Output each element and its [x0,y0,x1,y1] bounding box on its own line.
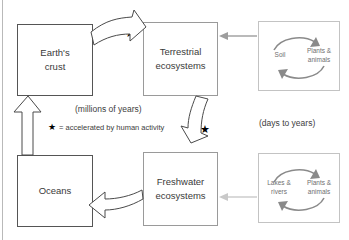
panel-terrestrial-right-label-line1: Plants & [300,47,338,56]
node-freshwater-line1: Freshwater [157,175,205,189]
panel-freshwater-left-label-line2: rivers [260,188,298,197]
star-icon: ★ [48,123,56,132]
figure-left-rule [2,0,3,240]
arrow-terrestrial-to-freshwater [181,96,208,143]
node-oceans[interactable]: Oceans [17,155,93,227]
panel-freshwater-right-label: Plants & animals [300,179,338,197]
node-oceans-line1: Oceans [39,184,72,198]
node-terrestrial-ecosystems[interactable]: Terrestrial ecosystems [143,22,218,96]
node-freshwater-line2: ecosystems [155,189,205,203]
node-terrestrial-line1: Terrestrial [160,45,202,59]
caption-millions-of-years: (millions of years) [75,104,142,114]
node-earth-crust[interactable]: Earth's crust [17,24,93,96]
carbon-cycle-diagram: Earth's crust Terrestrial ecosystems Oce… [0,0,349,240]
arrow-oceans-to-crust [14,96,41,155]
panel-freshwater-right-label-line2: animals [300,188,338,197]
node-earth-crust-line2: crust [45,60,66,74]
node-earth-crust-line1: Earth's [40,46,69,60]
star-icon-terrestrial-to-freshwater: ★ [200,124,210,135]
panel-freshwater-right-label-line1: Plants & [300,179,338,188]
clipped-top-caption [14,0,344,5]
panel-freshwater-left-label-line1: Lakes & [260,179,298,188]
panel-terrestrial-left-label-line1: Soil [263,51,297,60]
caption-days-to-years: (days to years) [259,118,315,128]
legend-human-activity-text: = accelerated by human activity [59,123,164,132]
node-terrestrial-line2: ecosystems [155,59,205,73]
arrow-freshwater-to-oceans [89,190,143,218]
panel-freshwater-left-label: Lakes & rivers [260,179,298,197]
arrow-lakes-panel-to-freshwater-head [219,193,228,201]
arrow-soil-panel-to-terrestrial-head [219,32,228,40]
star-icon-crust-to-terrestrial: ★ [125,28,135,39]
panel-terrestrial-right-label-line2: animals [300,56,338,65]
panel-terrestrial-left-label: Soil [263,51,297,60]
arrow-crust-to-terrestrial [91,10,146,45]
panel-terrestrial-right-label: Plants & animals [300,47,338,65]
legend-human-activity: ★ = accelerated by human activity [48,123,164,132]
node-freshwater-ecosystems[interactable]: Freshwater ecosystems [143,152,218,226]
